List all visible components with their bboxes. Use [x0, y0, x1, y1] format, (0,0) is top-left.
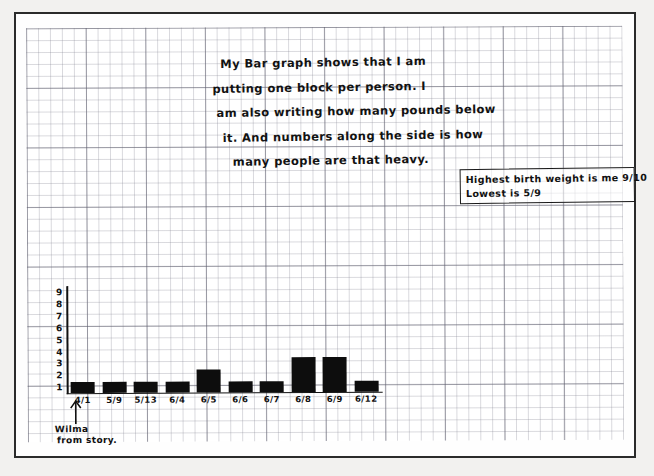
x-axis-tick: 6/7 — [258, 394, 286, 404]
scanned-worksheet-page: My Bar graph shows that I am putting one… — [0, 0, 654, 476]
callout-box: Highest birth weight is me 9/10 Lowest i… — [460, 167, 635, 204]
x-axis-tick: 6/6 — [226, 394, 254, 404]
y-axis-tick: 1 — [53, 381, 67, 393]
bar — [102, 382, 126, 393]
bar — [134, 382, 158, 393]
y-axis-tick: 2 — [53, 369, 67, 381]
bar — [228, 381, 252, 392]
annotation-line: from story. — [57, 434, 117, 446]
bar-chart: 987654321 4/15/95/136/46/56/66/76/86/96/… — [52, 285, 382, 394]
y-axis-tick: 8 — [52, 298, 66, 310]
x-axis-tick: 6/8 — [289, 394, 317, 404]
bar — [260, 381, 284, 392]
y-axis-tick: 5 — [52, 334, 66, 346]
note-line: am also writing how many pounds below — [216, 97, 510, 126]
x-axis-tick: 6/5 — [195, 394, 223, 404]
x-axis-tick: 5/9 — [100, 395, 128, 405]
bar-series: 4/15/95/136/46/56/66/76/86/96/12 — [68, 284, 384, 393]
bar — [71, 382, 95, 393]
note-line: My Bar graph shows that I am — [220, 48, 510, 77]
callout-line: Highest birth weight is me 9/10 — [466, 171, 634, 187]
up-arrow-icon — [67, 399, 85, 425]
y-axis-tick: 3 — [53, 358, 67, 370]
bar — [197, 370, 221, 393]
handwritten-note: My Bar graph shows that I am putting one… — [220, 49, 511, 173]
x-axis-tick: 6/9 — [321, 394, 349, 404]
scan-skew-wrapper: My Bar graph shows that I am putting one… — [15, 13, 635, 458]
y-axis-tick: 6 — [52, 322, 66, 334]
paper-surface: My Bar graph shows that I am putting one… — [16, 14, 634, 456]
y-axis-tick: 9 — [52, 286, 66, 298]
y-axis-labels: 987654321 — [52, 286, 66, 394]
x-axis-tick: 6/4 — [163, 395, 191, 405]
bar — [165, 382, 189, 393]
x-axis-tick: 6/12 — [352, 394, 380, 404]
bar — [291, 357, 315, 392]
y-axis-tick: 7 — [52, 310, 66, 322]
callout-line: Lowest is 5/9 — [466, 185, 634, 201]
y-axis-tick: 4 — [52, 346, 66, 358]
bar — [323, 357, 347, 392]
bar — [354, 381, 378, 392]
paper-sheet: My Bar graph shows that I am putting one… — [14, 12, 636, 458]
x-axis-tick: 5/13 — [132, 395, 160, 405]
